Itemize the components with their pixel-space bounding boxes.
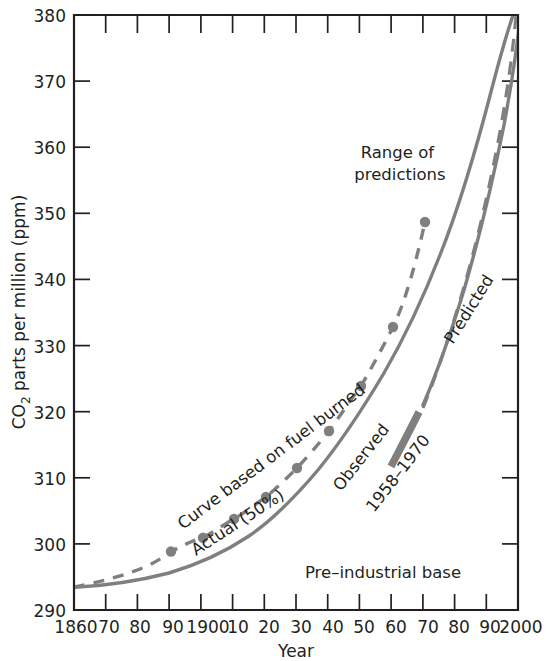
- series-curve-based-on-fuel-burned: [74, 222, 425, 587]
- data-point: [420, 217, 430, 227]
- x-axis-tick-labels: 1860 70 80 90 1900 10 20 30 40 50 60 70 …: [54, 617, 542, 637]
- data-point: [292, 463, 302, 473]
- xtick-label: 1900: [186, 617, 229, 637]
- x-axis-title: Year: [277, 641, 314, 661]
- plot-frame: [74, 15, 518, 610]
- ytick-label: 320: [34, 403, 66, 423]
- xtick-label: 80: [129, 617, 151, 637]
- xtick-label: 60: [385, 617, 407, 637]
- annotation-pre-industrial-base: Pre–industrial base: [305, 563, 461, 582]
- xtick-label: 40: [322, 617, 344, 637]
- ytick-label: 350: [34, 204, 66, 224]
- ytick-label: 370: [34, 72, 66, 92]
- y-axis-tick-labels: 290 300 310 320 330 340 350 360 370 380: [34, 6, 66, 621]
- ytick-label: 300: [34, 535, 66, 555]
- ytick-label: 310: [34, 469, 66, 489]
- series-predicted-central-estimate: [423, 16, 516, 408]
- xtick-label: 80: [448, 617, 470, 637]
- annotation-predicted: Predicted: [440, 271, 497, 347]
- xtick-label: 90: [162, 617, 184, 637]
- co2-concentration-chart: 290 300 310 320 330 340 350 360 370 380 …: [0, 0, 548, 661]
- series-actual-50-percent: [74, 2, 518, 587]
- data-point: [166, 546, 176, 556]
- xtick-label: 10: [227, 617, 249, 637]
- ytick-label: 340: [34, 270, 66, 290]
- y-axis-title: CO2 parts per million (ppm): [9, 195, 33, 430]
- xtick-label: 1860: [54, 617, 97, 637]
- chart-svg: 290 300 310 320 330 340 350 360 370 380 …: [0, 0, 548, 661]
- x-axis-ticks: [74, 594, 518, 610]
- xtick-label: 70: [417, 617, 439, 637]
- xtick-label: 30: [290, 617, 312, 637]
- y-axis-ticks: [74, 15, 90, 610]
- ytick-label: 380: [34, 6, 66, 26]
- ytick-label: 360: [34, 138, 66, 158]
- y-axis-title-text: CO: [9, 404, 29, 429]
- xtick-label: 2000: [499, 617, 542, 637]
- annotation-range-of-predictions: Range of predictions: [354, 143, 445, 184]
- x-axis-ticks-top: [106, 15, 487, 33]
- xtick-label: 70: [98, 617, 120, 637]
- xtick-label: 20: [258, 617, 280, 637]
- xtick-label: 50: [353, 617, 375, 637]
- annotation-range-of-predictions-line1: Range of: [361, 143, 436, 162]
- annotation-range-of-predictions-line2: predictions: [354, 165, 445, 184]
- data-point: [388, 322, 398, 332]
- ytick-label: 330: [34, 337, 66, 357]
- y-axis-ticks-right: [502, 81, 518, 544]
- xtick-label: 90: [479, 617, 501, 637]
